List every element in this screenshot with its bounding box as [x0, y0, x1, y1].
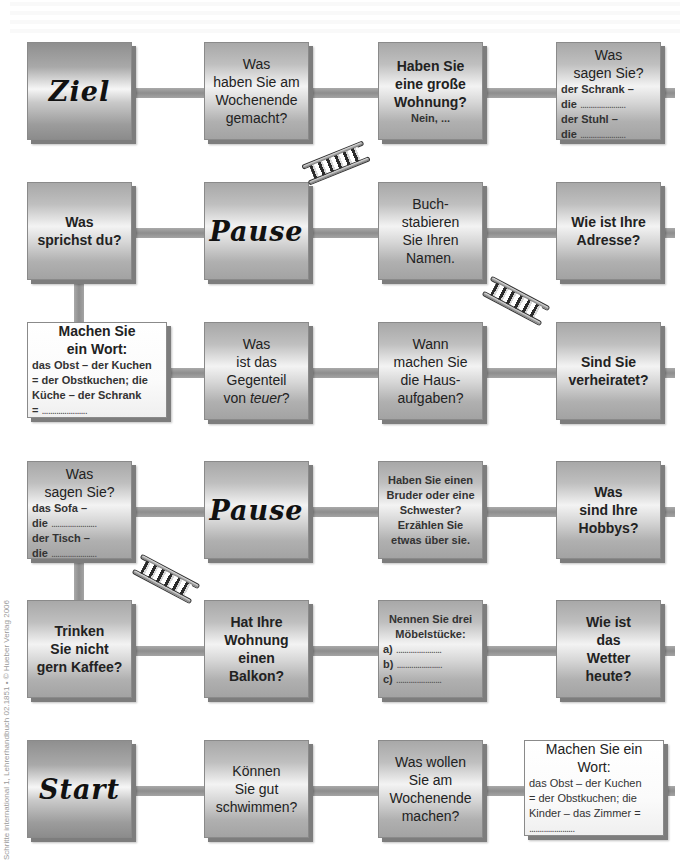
fill-in-lines: a) ...................... b) ...........… [383, 642, 478, 687]
field-question[interactable]: Wie ist das Wetter heute? [556, 600, 661, 698]
blank-line[interactable]: ...................... [580, 128, 625, 140]
field-question[interactable]: Wann machen Sie die Haus- aufgaben? [378, 322, 483, 420]
goal-label: Ziel [49, 76, 110, 107]
fill-in-lines: das Obst – der Kuchen = der Obstkuchen; … [529, 776, 659, 836]
field-question[interactable]: Sind Sie verheiratet? [556, 322, 661, 420]
field-question[interactable]: Können Sie gut schwimmen? [204, 740, 309, 838]
blank-line[interactable]: ...................... [396, 643, 441, 655]
field-question[interactable]: Was sind Ihre Hobbys? [556, 461, 661, 559]
blank-line[interactable]: ...................... [580, 98, 625, 110]
blank-line[interactable]: ...................... [396, 658, 441, 670]
pause-label: Pause [209, 216, 303, 247]
faded-header-text [10, 2, 680, 36]
field-question[interactable]: Was ist das Gegenteil von teuer? [204, 322, 309, 420]
field-question[interactable]: Buch- stabieren Sie Ihren Namen. [378, 182, 483, 280]
blank-line[interactable]: ...................... [51, 547, 96, 559]
start-label: Start [39, 774, 120, 805]
blank-line[interactable]: ...................... [41, 404, 86, 416]
blank-line[interactable]: ...................... [529, 822, 574, 834]
field-question[interactable]: Wie ist Ihre Adresse? [556, 182, 661, 280]
fill-in-lines: das Sofa – die ...................... de… [32, 501, 127, 561]
field-fill-in[interactable]: Machen Sie ein Wort: das Obst – der Kuch… [27, 322, 167, 418]
field-question[interactable]: Haben Sie einen Bruder oder eine Schwest… [378, 461, 483, 559]
field-fill-in[interactable]: Was sagen Sie? der Schrank – die .......… [556, 42, 661, 140]
blank-line[interactable]: ...................... [396, 673, 441, 685]
field-question[interactable]: Was sprichst du? [27, 182, 132, 280]
field-question[interactable]: Was wollen Sie am Wochenende machen? [378, 740, 483, 838]
field-pause[interactable]: Pause [204, 461, 309, 559]
track-vertical-row4-row5 [74, 558, 84, 603]
field-start[interactable]: Start [27, 740, 132, 838]
fill-in-lines: der Schrank – die ......................… [561, 82, 656, 142]
track-vertical-row2-row3 [74, 280, 84, 325]
blank-line[interactable]: ...................... [51, 517, 96, 529]
field-question[interactable]: Hat Ihre Wohnung einen Balkon? [204, 600, 309, 698]
ladder-icon [482, 276, 551, 326]
field-fill-in[interactable]: Machen Sie ein Wort: das Obst – der Kuch… [524, 740, 664, 836]
field-fill-in[interactable]: Was sagen Sie? das Sofa – die ..........… [27, 461, 132, 559]
ladder-icon [301, 140, 370, 185]
field-question[interactable]: Haben Sie eine große Wohnung? Nein, ... [378, 42, 483, 140]
ladder-icon [132, 554, 201, 604]
field-fill-in[interactable]: Nennen Sie drei Möbelstücke: a) ........… [378, 600, 483, 698]
copyright-note: Schritte international 1, Lehrerhandbuch… [2, 600, 11, 860]
field-goal[interactable]: Ziel [27, 42, 132, 140]
field-question[interactable]: Was haben Sie am Wochenende gemacht? [204, 42, 309, 140]
field-question[interactable]: Trinken Sie nicht gern Kaffee? [27, 600, 132, 698]
field-pause[interactable]: Pause [204, 182, 309, 280]
pause-label: Pause [209, 495, 303, 526]
fill-in-lines: das Obst – der Kuchen = der Obstkuchen; … [32, 358, 162, 418]
